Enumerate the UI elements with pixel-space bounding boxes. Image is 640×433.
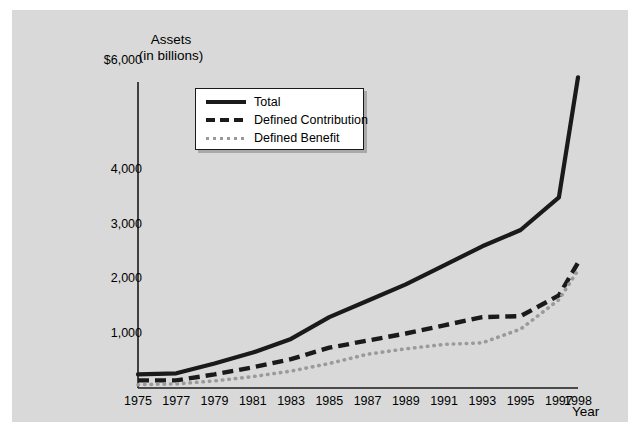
series-line-defined-contribution	[138, 263, 578, 381]
x-tick-label: 1983	[271, 394, 311, 408]
y-axis-title-line1: Assets	[116, 32, 226, 48]
y-tick-label: 1,000	[80, 326, 142, 340]
legend-item-total: Total	[204, 93, 280, 111]
dashed-line-swatch	[204, 114, 248, 126]
x-tick-label: 1989	[386, 394, 426, 408]
legend-label-total: Total	[254, 95, 280, 109]
x-tick-label: 1998	[558, 394, 598, 408]
legend-item-defined-contribution: Defined Contribution	[204, 111, 368, 129]
x-tick-label: 1991	[424, 394, 464, 408]
chart-panel: Assets (in billions) Year 1,0002,0003,00…	[12, 10, 628, 422]
legend-item-defined-benefit: Defined Benefit	[204, 129, 339, 147]
legend-label-defined-benefit: Defined Benefit	[254, 131, 339, 145]
x-tick-label: 1987	[348, 394, 388, 408]
x-tick-label: 1977	[156, 394, 196, 408]
solid-line-swatch	[204, 96, 248, 108]
y-tick-label: 2,000	[80, 271, 142, 285]
legend-label-defined-contribution: Defined Contribution	[254, 113, 368, 127]
chart-figure: Assets (in billions) Year 1,0002,0003,00…	[0, 0, 640, 433]
x-tick-label: 1979	[195, 394, 235, 408]
x-tick-label: 1975	[118, 394, 158, 408]
x-tick-label: 1981	[233, 394, 273, 408]
chart-legend: Total Defined Contribution Defined Benef…	[195, 88, 364, 150]
dotted-line-swatch	[204, 132, 248, 144]
x-tick-label: 1995	[501, 394, 541, 408]
x-tick-label: 1985	[309, 394, 349, 408]
y-tick-label: $6,000	[80, 53, 142, 67]
y-tick-label: 4,000	[80, 162, 142, 176]
x-tick-label: 1993	[462, 394, 502, 408]
y-tick-label: 3,000	[80, 217, 142, 231]
